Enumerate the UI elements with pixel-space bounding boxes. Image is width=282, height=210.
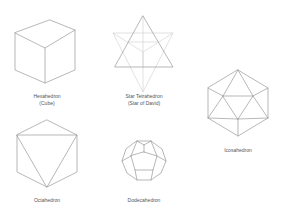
hexahedron-label: Hexahedron (Cube) (33, 93, 60, 107)
octahedron-label-line1: Octahedron (34, 197, 60, 204)
star-tetrahedron-label: Star Tetrahedron (Star of David) (125, 93, 162, 107)
star-tetrahedron-label-line1: Star Tetrahedron (125, 93, 162, 100)
octahedron-figure (17, 120, 77, 187)
hexahedron-figure (15, 20, 75, 83)
hexahedron-label-line1: Hexahedron (33, 93, 60, 100)
octahedron-label: Octahedron (34, 197, 60, 204)
icosahedron-figure (208, 70, 268, 136)
hexahedron-label-line2: (Cube) (33, 100, 60, 107)
icosahedron-label-line1: Icosahedron (224, 147, 252, 154)
dodecahedron-label-line1: Dodecahedron (128, 197, 161, 204)
icosahedron-label: Icosahedron (224, 147, 252, 154)
dodecahedron-label: Dodecahedron (128, 197, 161, 204)
star-tetrahedron-figure (113, 16, 173, 92)
star-tetrahedron-label-line2: (Star of David) (125, 100, 162, 107)
dodecahedron-figure (122, 141, 166, 180)
